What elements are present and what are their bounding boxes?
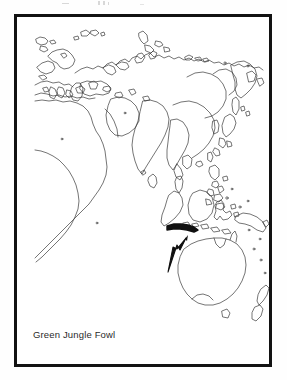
map-figure-frame: Green Jungle Fowl <box>14 14 272 367</box>
scan-speck <box>108 2 109 5</box>
figure-caption: Green Jungle Fowl <box>33 329 115 341</box>
coastline-paths <box>35 30 269 321</box>
scan-artifact-specks <box>0 0 287 14</box>
scan-speck <box>140 4 144 5</box>
world-map-line-art <box>17 17 269 364</box>
scanned-page: Green Jungle Fowl <box>0 0 287 380</box>
range-highlight-java <box>167 224 198 232</box>
scan-speck <box>98 1 100 5</box>
map-canvas-container <box>17 17 269 364</box>
scan-speck <box>62 3 69 4</box>
scan-speck <box>103 1 105 5</box>
